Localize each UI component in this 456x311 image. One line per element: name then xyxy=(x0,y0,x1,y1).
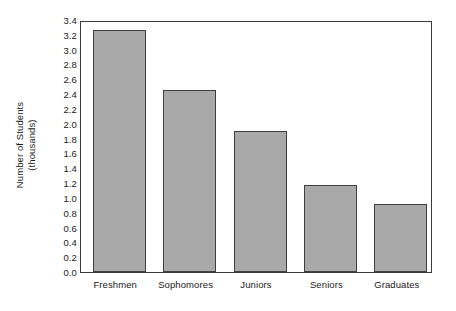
y-tick-label: 1.6 xyxy=(44,149,77,159)
y-tick-label: 0.4 xyxy=(44,238,77,248)
y-tick-label: 1.2 xyxy=(44,179,77,189)
y-tick-label: 0.0 xyxy=(44,268,77,278)
x-tick-label: Graduates xyxy=(362,279,432,291)
bar xyxy=(304,185,357,272)
y-tick-label: 2.4 xyxy=(44,90,77,100)
bar xyxy=(93,30,146,272)
y-tick-label: 3.2 xyxy=(44,31,77,41)
y-tick-label: 0.6 xyxy=(44,224,77,234)
y-axis-title-line-2: (thousands) xyxy=(26,102,38,188)
bar xyxy=(374,204,427,272)
y-tick-label: 2.6 xyxy=(44,75,77,85)
y-tick-label: 0.2 xyxy=(44,253,77,263)
y-axis-tick-labels: 3.43.23.02.82.62.42.22.01.81.61.41.21.00… xyxy=(44,21,77,273)
x-axis-tick-labels: FreshmenSophomoresJuniorsSeniorsGraduate… xyxy=(80,279,432,299)
y-axis-title-line-1: Number of Students xyxy=(14,102,26,188)
y-tick-label: 2.0 xyxy=(44,120,77,130)
bars-layer xyxy=(81,22,431,272)
plot-area xyxy=(80,21,432,273)
x-tick-label: Seniors xyxy=(291,279,361,291)
y-tick-label: 3.0 xyxy=(44,46,77,56)
x-tick-label: Freshmen xyxy=(80,279,150,291)
y-tick-label: 1.4 xyxy=(44,164,77,174)
y-tick-label: 1.0 xyxy=(44,194,77,204)
x-tick-label: Juniors xyxy=(221,279,291,291)
bar-chart-figure: Number of Students (thousands) 3.43.23.0… xyxy=(0,0,456,311)
y-tick-label: 0.8 xyxy=(44,209,77,219)
x-tick-label: Sophomores xyxy=(150,279,220,291)
bar xyxy=(234,131,287,272)
y-tick-label: 2.2 xyxy=(44,105,77,115)
y-tick-label: 3.4 xyxy=(44,16,77,26)
bar xyxy=(163,90,216,272)
y-tick-label: 1.8 xyxy=(44,135,77,145)
y-tick-label: 2.8 xyxy=(44,60,77,70)
